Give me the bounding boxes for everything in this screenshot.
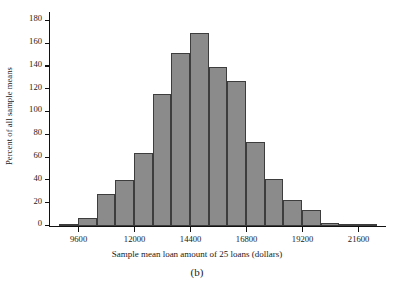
figure-caption: (b) [0, 266, 394, 278]
histogram-bar [171, 53, 190, 226]
y-axis-tick-label: 60 [33, 150, 42, 160]
y-axis-tick: 80 [45, 134, 50, 135]
y-axis-tick-label: 100 [29, 104, 42, 114]
y-axis-title: Percent of all sample means [0, 0, 18, 232]
x-axis-tick-label: 21600 [348, 234, 369, 244]
x-axis-tick: 9600 [78, 226, 79, 232]
y-axis-tick: 20 [45, 202, 50, 203]
y-axis-line [49, 12, 50, 227]
y-axis-tick: 120 [45, 88, 50, 89]
histogram-bar [321, 223, 340, 226]
y-axis-tick: 160 [45, 43, 50, 44]
y-axis-tick-label: 40 [33, 173, 42, 183]
histogram-bar [283, 200, 302, 226]
x-axis-tick: 14400 [190, 226, 191, 232]
plot-area: 020406080100120140160180 960012000144001… [50, 12, 386, 226]
y-axis-tick: 40 [45, 179, 50, 180]
x-axis-tick-label: 19200 [292, 234, 313, 244]
y-axis-tick-label: 140 [29, 59, 42, 69]
histogram-bar [227, 81, 246, 226]
y-axis-tick-label: 160 [29, 36, 42, 46]
y-axis-tick-label: 120 [29, 82, 42, 92]
histogram-bar [115, 180, 134, 226]
x-axis-tick-label: 16800 [236, 234, 257, 244]
x-axis-tick: 12000 [134, 226, 135, 232]
y-axis-tick: 60 [45, 157, 50, 158]
histogram-bar [246, 142, 265, 226]
histogram-bar [209, 67, 228, 226]
histogram-bar [302, 210, 321, 226]
x-axis-tick-label: 14400 [180, 234, 201, 244]
histogram-bar [153, 94, 172, 226]
y-axis-tick: 100 [45, 111, 50, 112]
histogram-bar [78, 218, 97, 226]
histogram-bar [97, 194, 116, 226]
y-axis-tick-label: 0 [38, 218, 42, 228]
histogram-bar [265, 179, 284, 226]
y-axis-tick: 180 [45, 20, 50, 21]
x-axis-tick: 16800 [246, 226, 247, 232]
x-axis-tick-label: 9600 [70, 234, 87, 244]
y-axis-tick-label: 80 [33, 127, 42, 137]
histogram-bar [134, 153, 153, 226]
x-axis-tick: 21600 [358, 226, 359, 232]
y-axis-tick: 0 [45, 225, 50, 226]
histogram-bar [358, 224, 377, 226]
y-axis-title-text: Percent of all sample means [4, 67, 14, 165]
histogram-bar [339, 224, 358, 226]
y-axis-tick-label: 20 [33, 196, 42, 206]
x-axis-tick-label: 12000 [124, 234, 145, 244]
x-axis-title: Sample mean loan amount of 25 loans (dol… [0, 249, 394, 259]
histogram-bar [190, 33, 209, 227]
y-axis-tick: 140 [45, 65, 50, 66]
histogram-bar [59, 224, 78, 226]
x-axis-tick: 19200 [302, 226, 303, 232]
histogram-figure: Percent of all sample means 020406080100… [0, 0, 394, 287]
y-axis-tick-label: 180 [29, 13, 42, 23]
